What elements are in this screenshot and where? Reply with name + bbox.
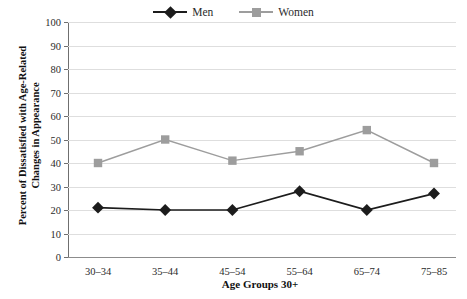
legend-label-men: Men [192, 6, 213, 18]
data-point-women-5[interactable] [430, 159, 438, 167]
x-tick-label-4: 65–74 [354, 266, 380, 277]
x-tick-label-1: 35–44 [152, 266, 178, 277]
y-tick-mark [64, 257, 68, 258]
legend-label-women: Women [278, 6, 313, 18]
data-point-women-3[interactable] [295, 147, 303, 155]
x-tick-label-2: 45–54 [219, 266, 245, 277]
data-point-men-5[interactable] [428, 188, 440, 200]
data-point-women-0[interactable] [94, 159, 102, 167]
square-marker-icon [252, 8, 261, 17]
data-point-women-4[interactable] [363, 126, 371, 134]
legend-swatch-women [239, 6, 273, 18]
series-line-women [98, 130, 434, 163]
data-point-men-2[interactable] [226, 204, 238, 216]
data-point-men-0[interactable] [92, 202, 104, 214]
legend-entry-women[interactable]: Women [239, 6, 313, 18]
y-axis-title-line-2: Changes in Appearance [30, 18, 43, 253]
y-tick-label-0: 0 [56, 252, 61, 263]
x-axis-title: Age Groups 30+ [60, 278, 460, 290]
legend-entry-men[interactable]: Men [153, 6, 213, 18]
data-point-women-2[interactable] [228, 156, 236, 164]
data-point-men-4[interactable] [361, 204, 373, 216]
data-point-men-1[interactable] [159, 204, 171, 216]
y-tick-label-70: 70 [51, 87, 62, 98]
y-axis-title: Percent of Dissatisfied with Age-Related… [17, 18, 42, 253]
y-tick-label-20: 20 [51, 205, 62, 216]
plot-area: 0102030405060708090100 30–3435–4445–5455… [68, 22, 456, 257]
y-tick-label-80: 80 [51, 64, 62, 75]
x-tick-label-3: 55–64 [286, 266, 312, 277]
chart-legend: Men Women [0, 3, 467, 21]
y-tick-label-30: 30 [51, 181, 62, 192]
series-container [68, 22, 456, 257]
x-tick-label-5: 75–85 [421, 266, 447, 277]
y-tick-label-90: 90 [51, 40, 62, 51]
chart-figure: Men Women Percent of Dissatisfied with A… [0, 0, 467, 299]
series-women [94, 126, 438, 167]
series-men [92, 185, 440, 216]
y-tick-label-60: 60 [51, 111, 62, 122]
y-tick-label-10: 10 [51, 228, 62, 239]
y-axis-title-line-1: Percent of Dissatisfied with Age-Related [17, 18, 30, 253]
legend-swatch-men [153, 6, 187, 18]
diamond-marker-icon [164, 6, 177, 19]
y-tick-label-50: 50 [51, 134, 62, 145]
y-tick-label-40: 40 [51, 158, 62, 169]
data-point-women-1[interactable] [161, 135, 169, 143]
series-line-men [98, 191, 434, 210]
data-point-men-3[interactable] [294, 185, 306, 197]
y-tick-label-100: 100 [45, 17, 61, 28]
gridline-0 [68, 257, 456, 258]
x-tick-label-0: 30–34 [85, 266, 111, 277]
